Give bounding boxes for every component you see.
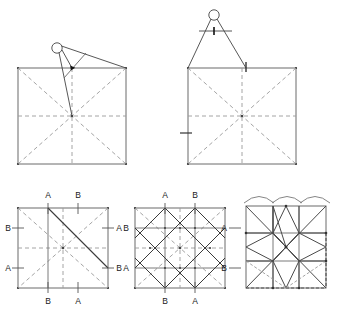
quilt-drafting-diagram: A B B A A B B A bbox=[0, 0, 337, 314]
label-left-a: A bbox=[123, 263, 129, 273]
lattice-node bbox=[164, 227, 166, 229]
panel-bottom-middle: A B B A A B B A bbox=[123, 190, 241, 306]
seam-node bbox=[272, 287, 275, 290]
lattice-node bbox=[164, 267, 166, 269]
star-point-w bbox=[246, 233, 286, 261]
label-right-a: A bbox=[221, 223, 227, 233]
lattice-node bbox=[209, 247, 211, 249]
seam-node bbox=[325, 260, 328, 263]
seam-node bbox=[245, 232, 248, 235]
seam-node bbox=[298, 287, 301, 290]
seam-node bbox=[285, 205, 288, 208]
lattice-node bbox=[194, 227, 196, 229]
lattice-node bbox=[194, 267, 196, 269]
label-bottom-a: A bbox=[75, 296, 81, 306]
figure-root: A B B A A B B A bbox=[0, 0, 337, 314]
label-top-a: A bbox=[162, 190, 168, 200]
scallop-arc bbox=[244, 197, 274, 204]
label-right-a: A bbox=[116, 223, 122, 233]
compass-hinge-icon bbox=[209, 10, 219, 20]
star-diagonal-arm bbox=[286, 206, 326, 247]
solid-diagonal-a-to-b bbox=[48, 208, 108, 268]
label-bottom-b: B bbox=[45, 296, 51, 306]
star-center-point bbox=[284, 245, 287, 248]
label-right-b: B bbox=[221, 263, 227, 273]
scallop-arcs bbox=[244, 197, 330, 204]
lattice-node bbox=[179, 267, 181, 269]
panel-bottom-right bbox=[244, 197, 330, 290]
scallop-arc bbox=[300, 197, 330, 204]
label-left-b: B bbox=[5, 223, 11, 233]
panel-top-left bbox=[17, 43, 127, 165]
center-point bbox=[179, 247, 182, 250]
compass-arm bbox=[62, 46, 127, 68]
scallop-arc bbox=[272, 197, 302, 204]
lattice-diagonal bbox=[135, 208, 165, 238]
star-diagonal-arm bbox=[286, 247, 326, 288]
lattice-node bbox=[179, 227, 181, 229]
panel-bottom-left: A B B A A B B A bbox=[5, 190, 122, 306]
label-bottom-b: B bbox=[162, 296, 168, 306]
eight-pointed-star bbox=[246, 206, 326, 288]
compass-leg bbox=[188, 19, 211, 68]
label-right-b: B bbox=[116, 263, 122, 273]
star-point-n bbox=[273, 206, 299, 247]
compass-tool bbox=[52, 43, 126, 116]
label-left-b: B bbox=[123, 223, 129, 233]
compass-hinge-icon bbox=[52, 43, 62, 53]
label-left-a: A bbox=[5, 263, 11, 273]
compass-tool bbox=[188, 10, 246, 68]
seam-node bbox=[325, 232, 328, 235]
center-point bbox=[62, 247, 65, 250]
lattice-node bbox=[149, 247, 151, 249]
panel-top-right bbox=[180, 10, 297, 165]
label-top-b: B bbox=[75, 190, 81, 200]
compass-cross-stroke bbox=[64, 53, 86, 78]
star-diagonal-arm bbox=[246, 247, 286, 288]
label-top-a: A bbox=[45, 190, 51, 200]
compass-leg bbox=[62, 50, 72, 68]
star-point-e bbox=[286, 233, 326, 261]
compass-leg bbox=[217, 19, 246, 68]
center-point bbox=[241, 115, 244, 118]
label-bottom-a: A bbox=[192, 296, 198, 306]
label-top-b: B bbox=[192, 190, 198, 200]
